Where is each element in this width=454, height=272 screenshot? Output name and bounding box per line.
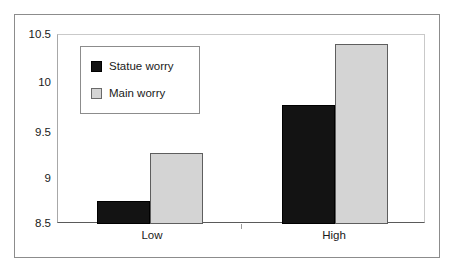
y-axis-tick-9: 9 — [45, 172, 51, 184]
legend-swatch-dark-icon — [91, 61, 102, 72]
y-axis-tick-9.5: 9.5 — [35, 126, 51, 138]
legend-item-statue-worry: Statue worry — [91, 59, 174, 73]
bar-chart-figure: 10.5 10 9.5 9 8.5 Low High Statue worry … — [0, 0, 454, 272]
x-axis: Low High — [57, 229, 426, 249]
x-axis-tick-low: Low — [97, 229, 207, 242]
y-axis: 10.5 10 9.5 9 8.5 — [0, 0, 51, 272]
y-axis-tick-8.5: 8.5 — [35, 217, 51, 229]
bar-high-main-worry — [335, 44, 388, 224]
x-axis-tick-high: High — [279, 229, 389, 242]
bar-high-statue-worry — [282, 105, 335, 224]
bar-low-statue-worry — [97, 201, 150, 224]
y-axis-tick-10: 10 — [38, 76, 51, 88]
bar-low-main-worry — [150, 153, 203, 224]
legend-item-main-worry: Main worry — [91, 86, 165, 100]
y-axis-tick-10.5: 10.5 — [29, 28, 51, 40]
legend-swatch-light-icon — [91, 88, 102, 99]
legend-label-statue-worry: Statue worry — [109, 60, 174, 73]
legend-label-main-worry: Main worry — [109, 87, 165, 100]
legend: Statue worry Main worry — [80, 46, 200, 114]
